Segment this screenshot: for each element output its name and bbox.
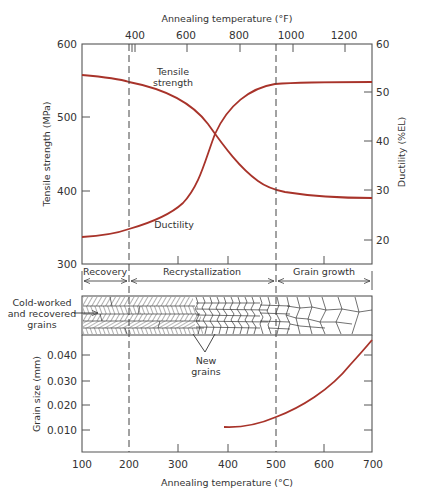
fahrenheit-tick-labels: 400 600 800 1000 1200 xyxy=(125,29,357,41)
bottom-plot-frame xyxy=(82,335,372,452)
celsius-tick-labels: 100 200 300 400 500 600 700 xyxy=(72,458,383,470)
svg-text:600: 600 xyxy=(176,29,196,41)
grain-size-curve xyxy=(224,340,372,427)
svg-text:600: 600 xyxy=(57,38,77,50)
svg-text:50: 50 xyxy=(376,86,389,98)
grain-axis-title: Grain size (mm) xyxy=(31,356,42,432)
fahrenheit-ticks xyxy=(132,44,345,52)
svg-text:1000: 1000 xyxy=(278,29,305,41)
new-grains-label-line2: grains xyxy=(191,366,220,377)
svg-text:0.010: 0.010 xyxy=(47,424,77,436)
svg-text:0.020: 0.020 xyxy=(47,399,77,411)
svg-text:500: 500 xyxy=(266,458,286,470)
celsius-ticks xyxy=(178,444,324,452)
svg-text:400: 400 xyxy=(57,185,77,197)
left-axis-title: Tensile strength (MPa) xyxy=(41,102,52,208)
svg-text:200: 200 xyxy=(119,458,139,470)
stage-recovery-label: Recovery xyxy=(83,266,127,277)
svg-text:600: 600 xyxy=(314,458,334,470)
svg-text:500: 500 xyxy=(57,111,77,123)
svg-text:0.040: 0.040 xyxy=(47,349,77,361)
cold-worked-label-line2: and recovered xyxy=(8,308,77,319)
svg-text:400: 400 xyxy=(218,458,238,470)
annealing-chart: Annealing temperature (°F) 400 600 800 1… xyxy=(0,0,422,497)
stage-recrystallization-label: Recrystallization xyxy=(163,266,241,277)
tensile-label-line2: strength xyxy=(153,77,193,88)
svg-text:300: 300 xyxy=(168,458,188,470)
top-chart-bottom-ticks xyxy=(178,256,324,264)
new-grains-label-line1: New xyxy=(196,355,217,366)
ductility-curve xyxy=(82,82,372,237)
svg-text:40: 40 xyxy=(376,135,389,147)
svg-text:400: 400 xyxy=(125,29,145,41)
svg-text:100: 100 xyxy=(72,458,92,470)
tensile-strength-curve xyxy=(82,75,372,198)
grain-size-tick-labels: 0.040 0.030 0.020 0.010 xyxy=(47,349,77,436)
microstructure-band xyxy=(82,296,372,335)
top-axis-title: Annealing temperature (°F) xyxy=(162,13,293,24)
svg-text:60: 60 xyxy=(376,38,389,50)
bottom-axis-title: Annealing temperature (°C) xyxy=(161,477,293,488)
svg-text:30: 30 xyxy=(376,184,389,196)
mpa-tick-labels: 600 500 400 300 xyxy=(57,38,77,270)
stage-boundary-lines xyxy=(129,44,276,452)
svg-text:20: 20 xyxy=(376,234,389,246)
svg-text:800: 800 xyxy=(229,29,249,41)
ductility-ticks xyxy=(364,92,372,240)
stage-grain-growth-label: Grain growth xyxy=(293,266,355,277)
cold-worked-label-line3: grains xyxy=(27,319,56,330)
grain-size-ticks xyxy=(82,355,372,430)
svg-text:0.030: 0.030 xyxy=(47,375,77,387)
svg-text:1200: 1200 xyxy=(331,29,358,41)
new-grains-pointer xyxy=(193,334,215,352)
mpa-ticks xyxy=(82,117,90,191)
right-axis-title: Ductility (%EL) xyxy=(396,117,407,187)
svg-text:300: 300 xyxy=(57,258,77,270)
svg-text:700: 700 xyxy=(363,458,383,470)
ductility-label: Ductility xyxy=(154,219,194,230)
ductility-tick-labels: 60 50 40 30 20 xyxy=(376,38,389,246)
tensile-label-line1: Tensile xyxy=(156,66,189,77)
cold-worked-label-line1: Cold-worked xyxy=(12,297,71,308)
